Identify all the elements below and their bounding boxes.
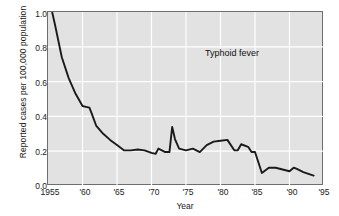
series-annotation-label: Typhoid fever bbox=[205, 48, 259, 58]
chart-figure: Reported cases per 100,000 population 1.… bbox=[0, 0, 339, 216]
x-tick-label-1965: '65 bbox=[113, 187, 124, 197]
x-tick-label-1960: '60 bbox=[79, 187, 90, 197]
plot-area bbox=[47, 11, 323, 185]
x-axis-label: Year bbox=[47, 201, 323, 211]
y-tick-label-0.8: 0.8 bbox=[21, 43, 47, 53]
x-tick-label-1970: '70 bbox=[148, 187, 159, 197]
gridlines bbox=[48, 12, 324, 186]
y-tick-label-0.2: 0.2 bbox=[21, 147, 47, 157]
x-tick-label-1985: '85 bbox=[251, 187, 262, 197]
x-tick-label-1990: '90 bbox=[286, 187, 297, 197]
y-tick-label-0.6: 0.6 bbox=[21, 78, 47, 88]
y-tick-label-0.4: 0.4 bbox=[21, 112, 47, 122]
x-tick-label-1995: '95 bbox=[318, 187, 329, 197]
y-tick-label-1.0: 1.0 bbox=[21, 9, 47, 19]
x-tick-label-1980: '80 bbox=[217, 187, 228, 197]
x-tick-label-1955: 1955 bbox=[41, 187, 60, 197]
chart-canvas bbox=[48, 12, 324, 186]
x-tick-label-1975: '75 bbox=[182, 187, 193, 197]
